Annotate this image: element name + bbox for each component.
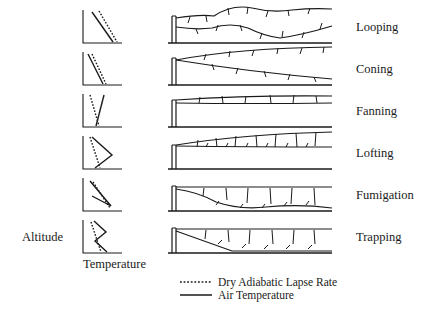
row-label-lofting: Lofting bbox=[356, 146, 394, 160]
plume-scene-looping bbox=[168, 7, 332, 43]
plume-scene-trapping bbox=[168, 228, 332, 253]
plume-lower-edge bbox=[176, 60, 332, 79]
row-label-coning: Coning bbox=[356, 62, 394, 76]
row-label-fumigation: Fumigation bbox=[356, 188, 414, 202]
plume-scene-coning bbox=[168, 47, 332, 85]
air-temperature-line bbox=[96, 95, 104, 126]
plume-upper-edge bbox=[176, 47, 332, 60]
row-label-trapping: Trapping bbox=[356, 230, 402, 244]
stack bbox=[172, 228, 176, 253]
sounding-fanning bbox=[83, 94, 122, 127]
stack bbox=[172, 145, 176, 169]
plume-scene-fumigation bbox=[168, 186, 332, 211]
plume-behaviour-diagram: Looping Coning Fanning Lofting Fumigatio… bbox=[0, 0, 423, 313]
legend: Dry Adiabatic Lapse Rate Air Temperature bbox=[180, 276, 337, 302]
legend-label-air-temperature: Air Temperature bbox=[218, 289, 294, 302]
row-label-fanning: Fanning bbox=[356, 104, 398, 118]
sounding-looping bbox=[83, 10, 122, 43]
plume-hatching bbox=[205, 230, 315, 249]
row-label-looping: Looping bbox=[356, 20, 399, 34]
sounding-lofting bbox=[83, 136, 122, 169]
plume-lower-edge bbox=[176, 146, 332, 147]
sounding-fumigation bbox=[83, 178, 122, 211]
plume-lower-edge bbox=[176, 189, 332, 208]
stack bbox=[172, 186, 176, 211]
air-temperature-line bbox=[88, 54, 103, 84]
dry-adiabat-line bbox=[90, 137, 100, 168]
plume-lower-edge bbox=[176, 25, 332, 38]
legend-label-dry-adiabatic-lapse-rate: Dry Adiabatic Lapse Rate bbox=[218, 276, 337, 289]
x-axis-label: Temperature bbox=[83, 257, 146, 271]
plume-lower-edge bbox=[176, 103, 332, 104]
stack bbox=[172, 58, 176, 85]
plume-scene-lofting bbox=[168, 132, 332, 169]
sounding-coning bbox=[83, 52, 122, 85]
plume-scene-fanning bbox=[168, 95, 332, 127]
air-temperature-line bbox=[94, 221, 107, 252]
plume-hatching bbox=[203, 188, 315, 208]
dry-adiabat-line bbox=[92, 54, 106, 84]
plume-upper-edge bbox=[176, 132, 332, 145]
stack bbox=[172, 100, 176, 127]
y-axis-label: Altitude bbox=[22, 230, 63, 244]
stack bbox=[172, 16, 176, 43]
sounding-trapping bbox=[83, 220, 122, 253]
